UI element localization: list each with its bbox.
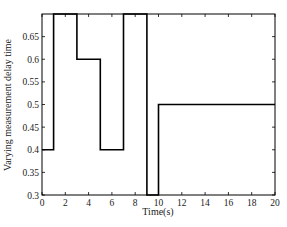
x-tick-label: 18 <box>247 198 257 208</box>
y-tick-label: 0.6 <box>27 55 39 65</box>
y-tick-label: 0.65 <box>22 32 39 42</box>
y-axis-label: Varying measurement delay time <box>2 38 13 170</box>
y-axis: 0.30.350.40.450.50.550.60.65 <box>22 32 275 200</box>
x-tick-label: 0 <box>40 198 45 208</box>
step-chart: 0.30.350.40.450.50.550.60.65 02468101214… <box>0 0 287 227</box>
x-tick-label: 14 <box>200 198 210 208</box>
x-tick-label: 16 <box>224 198 234 208</box>
series-line <box>42 14 275 195</box>
x-axis: 02468101214161820 <box>40 14 280 208</box>
y-tick-label: 0.45 <box>22 123 39 133</box>
y-tick-label: 0.55 <box>22 77 39 87</box>
y-tick-label: 0.5 <box>27 100 39 110</box>
x-tick-label: 20 <box>270 198 280 208</box>
plot-area <box>42 14 275 195</box>
x-tick-label: 6 <box>110 198 115 208</box>
x-tick-label: 8 <box>133 198 138 208</box>
x-axis-label: Time(s) <box>142 206 173 218</box>
y-tick-label: 0.4 <box>27 145 39 155</box>
y-tick-label: 0.3 <box>27 191 39 201</box>
x-tick-label: 4 <box>86 198 91 208</box>
y-tick-label: 0.35 <box>22 168 39 178</box>
x-tick-label: 2 <box>63 198 68 208</box>
x-tick-label: 12 <box>177 198 187 208</box>
